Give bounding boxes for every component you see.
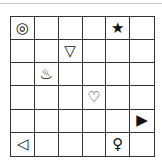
grid-cell-r1-c1[interactable] [35,40,59,63]
grid-cell-r5-c2[interactable] [59,133,83,156]
grid-cell-r1-c0[interactable] [11,40,35,63]
grid-cell-r0-c3[interactable] [83,17,107,40]
grid-cell-r3-c1[interactable] [35,86,59,109]
grid-cell-r2-c1[interactable]: ♨ [35,63,59,86]
heart-icon: ♡ [87,90,100,105]
grid-cell-r3-c0[interactable] [11,86,35,109]
grid-cell-r3-c3[interactable]: ♡ [83,86,107,109]
grid-cell-r4-c3[interactable] [83,110,107,133]
grid-cell-r1-c4[interactable] [106,40,130,63]
grid-cell-r2-c3[interactable] [83,63,107,86]
triangle-right-filled-icon: ▶ [136,113,148,128]
grid-cell-r1-c5[interactable] [130,40,154,63]
grid-cell-r0-c2[interactable] [59,17,83,40]
grid-cell-r4-c0[interactable] [11,110,35,133]
grid-cell-r3-c4[interactable] [106,86,130,109]
grid-cell-r1-c2[interactable]: ▽ [59,40,83,63]
female-symbol-icon: ♀ [112,137,123,152]
grid-cell-r3-c5[interactable] [130,86,154,109]
grid-cell-r0-c0[interactable]: ◎ [11,17,35,40]
grid-cell-r4-c5[interactable]: ▶ [130,110,154,133]
grid-cell-r5-c0[interactable]: ◁ [11,133,35,156]
grid-cell-r5-c4[interactable]: ♀ [106,133,130,156]
top-divider [0,3,162,4]
hot-springs-icon: ♨ [40,67,53,82]
grid-cell-r2-c5[interactable] [130,63,154,86]
grid-cell-r4-c2[interactable] [59,110,83,133]
grid-cell-r2-c0[interactable] [11,63,35,86]
grid-cell-r2-c2[interactable] [59,63,83,86]
star-icon: ★ [111,21,124,36]
grid-cell-r1-c3[interactable] [83,40,107,63]
puzzle-grid: ◎★▽♨♡▶◁♀ [10,16,155,157]
grid-cell-r0-c1[interactable] [35,17,59,40]
triangle-left-icon: ◁ [17,137,29,152]
triangle-down-icon: ▽ [64,44,76,59]
grid-cell-r5-c1[interactable] [35,133,59,156]
grid-cell-r5-c3[interactable] [83,133,107,156]
grid-cell-r3-c2[interactable] [59,86,83,109]
grid-cell-r4-c4[interactable] [106,110,130,133]
grid-cell-r0-c5[interactable] [130,17,154,40]
grid-cell-r2-c4[interactable] [106,63,130,86]
grid-cell-r0-c4[interactable]: ★ [106,17,130,40]
grid-cell-r4-c1[interactable] [35,110,59,133]
bullseye-icon: ◎ [16,21,29,36]
grid-cell-r5-c5[interactable] [130,133,154,156]
